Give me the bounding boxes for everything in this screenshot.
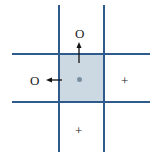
label-right: +: [121, 74, 128, 87]
label-left: O: [30, 74, 39, 87]
label-bottom: +: [75, 124, 82, 137]
label-top: O: [75, 27, 84, 40]
